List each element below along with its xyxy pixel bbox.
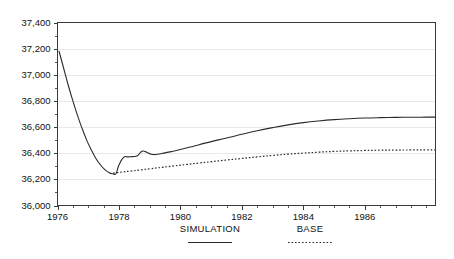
- chart-legend: SIMULATIONBASE: [180, 223, 332, 243]
- x-minor-ticks-group: [59, 206, 427, 210]
- x-axis-tick-label: 1986: [354, 211, 375, 222]
- y-axis-tick-label: 36,400: [21, 147, 50, 158]
- y-axis-tick-labels: 36,00036,20036,40036,60036,80037,00037,2…: [21, 17, 50, 211]
- series-line-simulation: [59, 51, 435, 174]
- y-axis-tick-label: 37,400: [21, 17, 50, 28]
- legend-label-simulation: SIMULATION: [180, 223, 240, 234]
- x-axis-tick-label: 1982: [231, 211, 252, 222]
- x-axis-tick-label: 1980: [170, 211, 191, 222]
- y-axis-tick-label: 37,000: [21, 69, 50, 80]
- y-axis-tick-label: 36,800: [21, 95, 50, 106]
- y-axis-tick-label: 36,200: [21, 173, 50, 184]
- series-layer: [59, 51, 435, 174]
- y-axis-tick-label: 37,200: [21, 43, 50, 54]
- x-axis-tick-labels: 197619781980198219841986: [47, 211, 375, 222]
- y-axis-tick-label: 36,000: [21, 200, 50, 211]
- x-axis-tick-label: 1984: [293, 211, 314, 222]
- x-axis-tick-label: 1976: [47, 211, 68, 222]
- y-axis-tick-label: 36,600: [21, 121, 50, 132]
- line-chart: 36,00036,20036,40036,60036,80037,00037,2…: [0, 0, 454, 259]
- gridlines-group: [58, 50, 436, 180]
- legend-label-base: BASE: [297, 223, 324, 234]
- chart-container: 36,00036,20036,40036,60036,80037,00037,2…: [0, 0, 454, 259]
- x-axis-tick-label: 1978: [108, 211, 129, 222]
